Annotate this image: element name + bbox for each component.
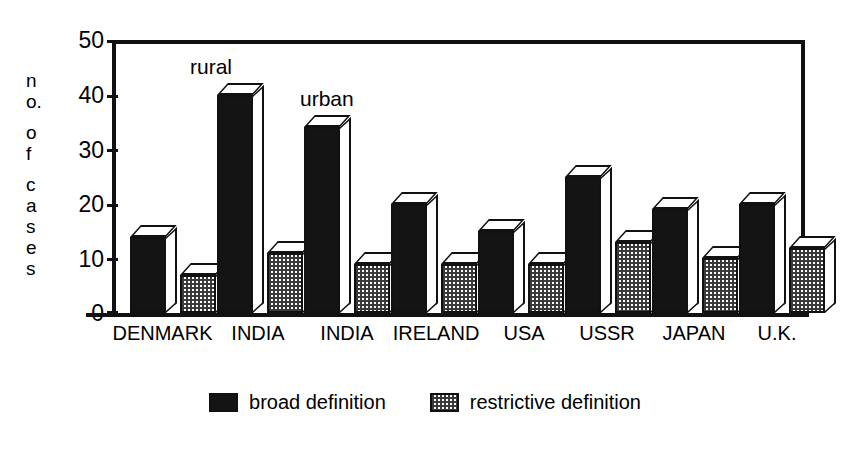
annotation-rural: rural [190, 56, 232, 77]
bar-broad-ussr [565, 177, 601, 313]
x-axis-label-india-rural: INDIA [213, 322, 303, 344]
bar-broad-india-rural [217, 95, 253, 313]
bar-top-3d [304, 115, 340, 127]
bar-top-3d [652, 197, 688, 209]
bar-side-3d [688, 199, 699, 313]
bar-face [130, 237, 166, 313]
y-axis-title-letter: s [26, 258, 36, 279]
x-axis-label-ussr: USSR [563, 322, 651, 344]
bar-top-3d [478, 219, 514, 231]
bar-face [267, 253, 303, 313]
bar-restrictive-india-rural [267, 253, 303, 313]
y-axis-title-letter: e [26, 237, 37, 258]
bar-face [217, 95, 253, 313]
x-axis-label-india-urban: INDIA [302, 322, 392, 344]
legend-label: restrictive definition [470, 392, 641, 412]
y-axis-tick-label: 30 [58, 139, 104, 162]
y-axis-tick-label: 20 [58, 193, 104, 216]
bar-face [391, 204, 427, 313]
bar-side-3d [166, 227, 177, 313]
bar-top-3d [702, 246, 738, 258]
bar-face [441, 264, 477, 313]
bar-top-3d [391, 192, 427, 204]
bar-face [354, 264, 390, 313]
bar-face [180, 275, 216, 313]
y-axis-title-letter: a [26, 195, 37, 216]
bar-top-3d [739, 192, 775, 204]
bar-face [304, 127, 340, 313]
bar-restrictive-usa [528, 264, 564, 313]
bar-broad-uk [739, 204, 775, 313]
bar-top-3d [615, 230, 651, 242]
bar-broad-ireland [391, 204, 427, 313]
bar-broad-japan [652, 209, 688, 313]
y-axis-tick-label: 50 [58, 29, 104, 52]
bar-side-3d [253, 85, 264, 313]
bar-restrictive-denmark [180, 275, 216, 313]
bar-top-3d [565, 165, 601, 177]
bar-face [565, 177, 601, 313]
legend-swatch-stipple [430, 393, 459, 412]
y-axis-tick-label: 40 [58, 84, 104, 107]
bar-top-3d [130, 225, 166, 237]
bar-face [789, 248, 825, 313]
bar-face [702, 258, 738, 313]
bar-broad-denmark [130, 237, 166, 313]
annotation-urban: urban [300, 88, 354, 109]
bar-face [615, 242, 651, 313]
y-axis-title-letter: c [26, 174, 36, 195]
bar-side-3d [775, 194, 786, 313]
bar-chart-figure: n o. o f c a s e s 50 40 30 20 10 0 [0, 0, 850, 450]
bar-top-3d [789, 236, 825, 248]
bar-restrictive-ussr [615, 242, 651, 313]
x-axis-label-denmark: DENMARK [110, 322, 215, 344]
bar-face [528, 264, 564, 313]
x-axis-label-usa: USA [484, 322, 564, 344]
bar-top-3d [267, 241, 303, 253]
bar-broad-usa [478, 231, 514, 313]
x-axis-label-japan: JAPAN [649, 322, 739, 344]
legend-item-broad-definition: broad definition [209, 392, 386, 412]
y-axis-title-letter: n [26, 70, 37, 91]
y-axis-title-letter: f [26, 143, 31, 164]
bar-restrictive-japan [702, 258, 738, 313]
bar-side-3d [514, 221, 525, 313]
plot-area [112, 40, 805, 313]
y-axis-title-letter: s [26, 216, 36, 237]
bar-face [478, 231, 514, 313]
x-axis-label-uk: U.K. [737, 322, 817, 344]
y-axis-title-letter: o. [26, 91, 42, 112]
bar-restrictive-ireland [441, 264, 477, 313]
legend-swatch-black [209, 393, 238, 412]
bar-side-3d [825, 238, 836, 313]
bar-side-3d [340, 117, 351, 313]
legend-item-restrictive-definition: restrictive definition [430, 392, 641, 412]
chart-legend: broad definition restrictive definition [0, 392, 850, 412]
bar-restrictive-uk [789, 248, 825, 313]
y-axis-title: n o. o f c a s e s [26, 70, 60, 279]
bar-top-3d [180, 263, 216, 275]
bar-restrictive-india-urban [354, 264, 390, 313]
bar-top-3d [528, 252, 564, 264]
legend-label: broad definition [249, 392, 386, 412]
bar-face [652, 209, 688, 313]
bar-top-3d [441, 252, 477, 264]
bar-broad-india-urban [304, 127, 340, 313]
y-axis-title-letter: o [26, 122, 37, 143]
x-axis-label-ireland: IRELAND [383, 322, 489, 344]
bar-top-3d [354, 252, 390, 264]
bar-side-3d [427, 194, 438, 313]
x-axis-baseline [86, 313, 809, 317]
y-axis-tick-label: 10 [58, 248, 104, 271]
bar-side-3d [601, 167, 612, 313]
bar-face [739, 204, 775, 313]
bar-top-3d [217, 83, 253, 95]
